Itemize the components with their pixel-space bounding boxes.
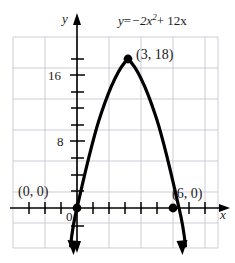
- origin-label: (0, 0): [18, 184, 48, 200]
- y-tick-label-16: 16: [48, 68, 61, 84]
- grid-lines: [13, 37, 218, 248]
- x-intercept-label: (6, 0): [172, 186, 202, 202]
- equation-term2: + 12x: [157, 13, 187, 28]
- y-axis-label: y: [62, 11, 68, 27]
- equation-term1: −2x: [131, 13, 152, 28]
- origin-point: [73, 204, 82, 213]
- vertex-label: (3, 18): [136, 47, 173, 63]
- y-tick-label-8: 8: [57, 134, 64, 150]
- x-intercept-point: [169, 204, 178, 213]
- vertex-point: [124, 55, 133, 64]
- parabola-graph-figure: y=−2x2+ 12x y x 16 8 0 (3, 18) (0, 0) (6…: [0, 0, 235, 263]
- parabola-curve: [68, 59, 188, 255]
- equation-label: y=−2x2+ 12x: [118, 12, 187, 29]
- x-axis-label: x: [220, 207, 226, 223]
- graph-canvas: [0, 0, 235, 263]
- origin-tick-label: 0: [66, 209, 73, 225]
- x-axis: [10, 204, 230, 212]
